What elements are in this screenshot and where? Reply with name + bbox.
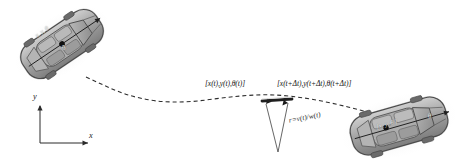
- coordinate-axes: [37, 105, 88, 146]
- wheel-axle: [262, 97, 292, 101]
- y-axis-label: y: [33, 92, 37, 101]
- pose-label-t-delta: [x(t+Δt),y(t+Δt),θ(t+Δt)]: [277, 79, 351, 88]
- y-axis-arrow: [37, 105, 42, 111]
- icr-construction: [266, 99, 288, 153]
- x-axis-label: x: [89, 131, 93, 140]
- pose-label-t: [x(t),y(t),θ(t)]: [205, 79, 245, 88]
- kinematics-diagram: [x(t),y(t),θ(t)] [x(t+Δt),y(t+Δt),θ(t+Δt…: [0, 0, 467, 162]
- car-end: [335, 81, 463, 162]
- x-axis-arrow: [83, 140, 89, 145]
